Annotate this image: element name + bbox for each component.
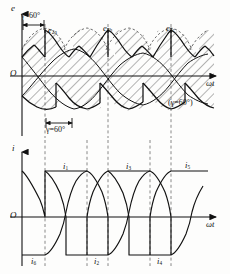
upper-x-axis-label: ωt — [206, 79, 214, 88]
curve-label-i1-sub: 1 — [65, 165, 68, 171]
gamma-measure-top — [23, 20, 44, 30]
curve-label-i4-sub: 4 — [159, 260, 162, 266]
curve-label-i6: i6 — [31, 257, 36, 266]
curve-label-i4: i4 — [157, 257, 162, 266]
curve-label-i3-sub: 3 — [128, 165, 131, 171]
lower-x-axis-label: ωt — [206, 220, 214, 229]
waveform-figure: e O ωt γ=60° γ=60° (γ=60°) e2a e2b e2c — [0, 0, 230, 274]
curve-label-e2b: e2b — [103, 24, 112, 33]
curve-label-i2-sub: 2 — [96, 260, 99, 266]
upper-y-axis-label: e — [11, 4, 15, 13]
curve-label-e2c: e2c — [166, 24, 175, 33]
upper-plot-canvas — [0, 0, 230, 140]
curve-label-i5: i5 — [185, 161, 190, 170]
upper-origin-label: O — [10, 69, 17, 78]
curve-label-i2: i2 — [94, 257, 99, 266]
curve-label-e2a-sub: 2a — [52, 29, 57, 35]
lower-y-axis-label: i — [12, 144, 15, 153]
negative-current-waveforms — [22, 171, 203, 255]
curve-label-e2a: e2a — [48, 26, 57, 35]
gamma-label-top: γ=60° — [21, 12, 40, 20]
gamma-label-bottom: γ=60° — [46, 126, 65, 134]
curve-label-e2c-sub: 2c — [170, 27, 175, 33]
curve-label-e2b-sub: 2b — [107, 27, 112, 33]
lower-plot-canvas — [0, 140, 230, 274]
curve-label-i5-sub: 5 — [187, 164, 190, 170]
gamma-label-parenthesized: (γ=60°) — [168, 99, 193, 107]
curve-label-i6-sub: 6 — [33, 260, 36, 266]
curve-label-i3: i3 — [126, 162, 131, 171]
positive-current-waveforms — [22, 171, 208, 255]
lower-origin-label: O — [10, 211, 17, 220]
curve-label-i1: i1 — [63, 162, 68, 171]
